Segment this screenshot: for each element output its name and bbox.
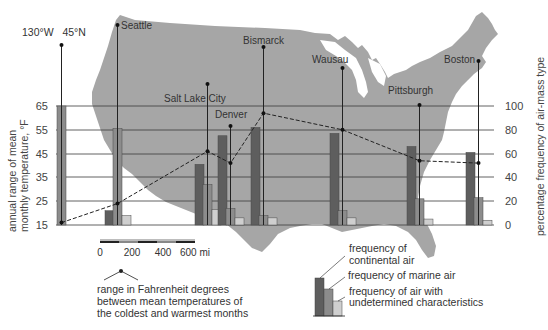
legend-continental-text: frequency of xyxy=(349,242,407,254)
undetermined-bar xyxy=(268,218,277,225)
scale-tick: 200 xyxy=(124,247,141,258)
continental-bar xyxy=(330,133,339,225)
continental-bar xyxy=(466,152,475,225)
range-legend-text: the coldest and warmest months xyxy=(97,307,248,319)
right-tick: 80 xyxy=(505,124,517,136)
coordinate-label: 130°W 45°N xyxy=(22,26,86,38)
undetermined-bar xyxy=(483,220,492,225)
station-marker xyxy=(477,59,481,63)
station-marker xyxy=(418,103,422,107)
station-marker xyxy=(206,82,210,86)
legend-swatch-continental xyxy=(315,278,324,316)
scale-bar: 0 200 400 600 mi xyxy=(97,240,210,258)
station-label: Salt Lake City xyxy=(164,93,226,104)
station-marker xyxy=(229,124,233,128)
scale-tick: 600 mi xyxy=(180,247,210,258)
station-label: Denver xyxy=(215,109,248,120)
range-point xyxy=(116,202,120,206)
undetermined-bar xyxy=(424,219,433,225)
right-tick: 0 xyxy=(505,219,511,231)
undetermined-bar xyxy=(235,218,244,225)
range-legend-text: between mean temperatures of xyxy=(97,295,242,307)
left-tick: 15 xyxy=(36,219,48,231)
left-tick: 45 xyxy=(36,148,48,160)
undetermined-bar xyxy=(122,215,131,225)
air-mass-chart: 65 55 45 35 25 15 100 80 60 40 20 0 annu… xyxy=(0,0,548,330)
station-label: Bismarck xyxy=(243,35,285,46)
right-tick: 20 xyxy=(505,195,517,207)
station-label: Pittsburgh xyxy=(388,85,433,96)
scale-tick: 400 xyxy=(155,247,172,258)
right-tick: 40 xyxy=(505,171,517,183)
station-label: Wausau xyxy=(312,54,348,65)
continental-bar xyxy=(218,136,227,225)
continental-bar xyxy=(407,146,416,225)
continental-bar xyxy=(251,127,260,225)
us-map-silhouette xyxy=(92,12,498,258)
right-axis-title: percentage frequency of air-mass type xyxy=(534,57,546,236)
range-legend-text: range in Fahrenheit degrees xyxy=(97,283,229,295)
scale-tick: 0 xyxy=(97,247,103,258)
station-marker xyxy=(116,23,120,27)
range-legend: range in Fahrenheit degrees between mean… xyxy=(97,269,248,319)
legend-swatch-undetermined xyxy=(333,301,342,316)
range-point xyxy=(262,111,266,115)
left-axis-ticks: 65 55 45 35 25 15 xyxy=(36,100,48,231)
station-label: Seattle xyxy=(121,20,153,31)
legend-marine-text: frequency of marine air xyxy=(348,269,456,281)
legend-swatch-marine xyxy=(324,289,333,316)
continental-bar xyxy=(105,211,114,225)
range-point xyxy=(60,221,64,225)
station-marker xyxy=(60,43,64,47)
continental-bar xyxy=(195,164,204,225)
left-axis-title-line1: annual range of mean xyxy=(6,130,18,232)
range-point xyxy=(341,128,345,132)
left-tick: 35 xyxy=(36,171,48,183)
right-tick: 100 xyxy=(505,100,523,112)
undetermined-bar xyxy=(347,218,356,225)
range-point xyxy=(418,159,422,163)
right-tick: 60 xyxy=(505,148,517,160)
legend-continental-text: continental air xyxy=(349,254,415,266)
left-axis-title-line2: monthly temperature, °F xyxy=(18,119,30,232)
range-point xyxy=(229,161,233,165)
left-tick: 65 xyxy=(36,100,48,112)
left-tick: 55 xyxy=(36,124,48,136)
right-axis-ticks: 100 80 60 40 20 0 xyxy=(505,100,523,231)
station-marker xyxy=(341,66,345,70)
bar-legend: frequency of continental air frequency o… xyxy=(313,242,483,316)
range-point xyxy=(477,161,481,165)
station-130-w-45-n xyxy=(57,43,66,225)
left-tick: 25 xyxy=(36,195,48,207)
range-point xyxy=(206,149,210,153)
station-label: Boston xyxy=(444,54,475,65)
legend-undetermined-text: undetermined characteristics xyxy=(349,296,483,308)
